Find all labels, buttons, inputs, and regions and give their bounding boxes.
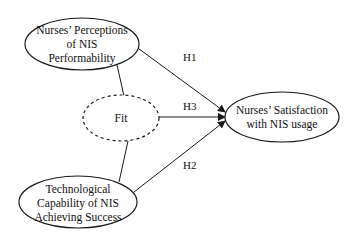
node-fit-label: Fit xyxy=(83,95,159,141)
node-capability-line-1: Technological xyxy=(46,182,111,196)
node-satisfaction-line-2: with NIS usage xyxy=(247,117,318,131)
node-perceptions-label: Nurses’ Perceptions of NIS Performabilit… xyxy=(25,19,139,69)
edge-label-h1: H1 xyxy=(183,51,196,63)
node-capability-line-3: Achieving Success xyxy=(34,210,121,224)
node-satisfaction-line-1: Nurses’ Satisfaction xyxy=(236,103,328,117)
node-perceptions-line-3: Performability xyxy=(48,51,115,65)
node-fit-line-1: Fit xyxy=(115,111,128,125)
node-capability-label: Technological Capability of NIS Achievin… xyxy=(19,177,137,228)
edge-perceptions-fit xyxy=(117,65,124,96)
node-perceptions-line-2: of NIS xyxy=(67,37,98,51)
edge-fit-capability xyxy=(119,141,128,182)
edge-label-h3: H3 xyxy=(183,100,196,112)
node-satisfaction-label: Nurses’ Satisfaction with NIS usage xyxy=(225,92,339,142)
node-capability-line-2: Capability of NIS xyxy=(37,196,119,210)
edge-label-h2: H2 xyxy=(183,159,196,171)
node-perceptions-line-1: Nurses’ Perceptions xyxy=(36,23,127,37)
